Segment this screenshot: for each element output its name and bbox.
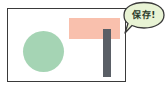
green-circle-shape	[23, 31, 64, 72]
pink-rectangle-shape	[69, 18, 120, 39]
dark-vertical-bar-shape	[103, 29, 111, 77]
speech-bubble-text: 保存!	[124, 7, 164, 23]
